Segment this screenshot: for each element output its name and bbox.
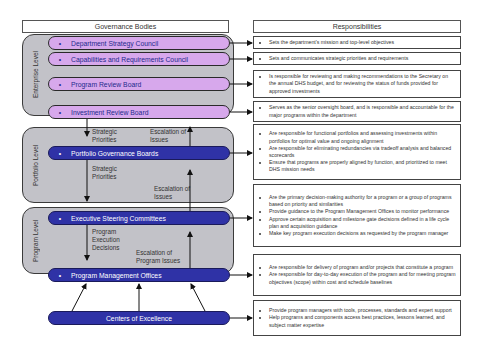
resp-item: Sets the department's mission and top-le… — [269, 39, 456, 46]
resp-item: Approve certain acquisition and mileston… — [269, 216, 456, 230]
resp-item: Are responsible for functional portfolio… — [269, 130, 456, 144]
resp-capabilities-requirements-council: Sets and communicates strategic prioriti… — [253, 52, 461, 65]
resp-item: Is responsible for reviewing and making … — [269, 73, 456, 95]
resp-item: Provide guidance to the Program Manageme… — [269, 208, 456, 215]
resp-item: Serves as the senior oversight board, an… — [269, 104, 456, 118]
resp-centers-of-excellence: Provide program managers with tools, pro… — [253, 300, 461, 336]
resp-department-strategy-council: Sets the department's mission and top-le… — [253, 36, 461, 49]
resp-item: Are responsible for day-to-day execution… — [269, 271, 456, 285]
resp-executive-steering-committees: Are the primary decision-making authorit… — [253, 184, 461, 247]
resp-item: Ensure that programs are properly aligne… — [269, 159, 456, 173]
resp-investment-review-board: Serves as the senior oversight board, an… — [253, 101, 461, 122]
resp-item: Make key program execution decisions as … — [269, 230, 456, 237]
resp-program-management-offices: Are responsible for delivery of program … — [253, 254, 461, 296]
resp-item: Are the primary decision-making authorit… — [269, 194, 456, 208]
resp-item: Provide program managers with tools, pro… — [269, 307, 456, 314]
resp-item: Help programs and components access best… — [269, 314, 456, 328]
resp-portfolio-governance-boards: Are responsible for functional portfolio… — [253, 124, 461, 180]
resp-program-review-board: Is responsible for reviewing and making … — [253, 70, 461, 98]
resp-item: Sets and communicates strategic prioriti… — [269, 55, 456, 62]
resp-item: Are responsible for eliminating redundan… — [269, 145, 456, 159]
resp-item: Are responsible for delivery of program … — [269, 264, 456, 271]
